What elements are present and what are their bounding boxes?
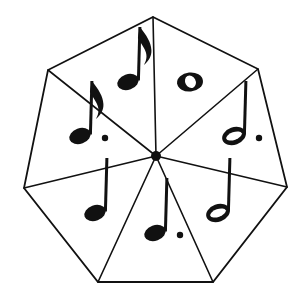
note-stem: [228, 158, 230, 212]
heptagon-wheel-diagram: [0, 0, 308, 296]
note-stem: [244, 81, 246, 135]
augmentation-dot: [102, 135, 108, 141]
center-hub: [151, 151, 161, 161]
music-note-wheel-figure: [0, 0, 308, 296]
augmentation-dot: [256, 135, 262, 141]
note-stem: [105, 158, 107, 212]
augmentation-dot: [177, 232, 183, 238]
note-stem: [165, 178, 167, 232]
